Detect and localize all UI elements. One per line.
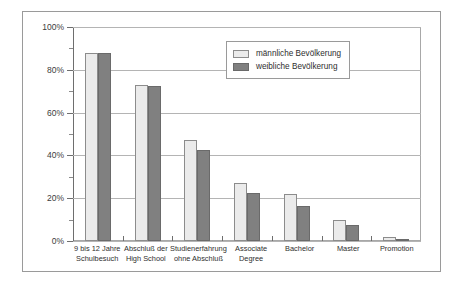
- y-axis-label: 80%: [47, 65, 64, 75]
- bar-female: [247, 193, 260, 241]
- x-axis-label: AssociateDegree: [227, 244, 276, 263]
- bar-group: [172, 27, 222, 241]
- bar-group: [371, 27, 421, 241]
- y-axis-label: 20%: [47, 193, 64, 203]
- y-axis-label: 100%: [42, 22, 64, 32]
- bar-female: [346, 225, 359, 241]
- bar-male: [135, 85, 148, 241]
- bar-group: [123, 27, 173, 241]
- x-tick: [123, 236, 124, 241]
- bar-female: [396, 239, 409, 241]
- y-tick-major: [67, 241, 73, 242]
- x-axis-label: Abschluß derHigh School: [122, 244, 171, 263]
- legend-label-male: männliche Bevölkerung: [256, 49, 341, 58]
- x-axis-labels: 9 bis 12 JahreSchulbesuchAbschluß derHig…: [73, 244, 421, 263]
- bar-male: [85, 53, 98, 241]
- bar-female: [98, 53, 111, 241]
- bar-female: [148, 86, 161, 241]
- x-axis-label: Studienerfahrungohne Abschluß: [170, 244, 227, 263]
- legend-swatch-female: [233, 63, 249, 71]
- legend-item-male: männliche Bevölkerung: [233, 47, 341, 60]
- chart-legend: männliche Bevölkerung weibliche Bevölker…: [226, 41, 350, 79]
- bar-female: [197, 150, 210, 241]
- y-axis-label: 0%: [52, 236, 64, 246]
- bar-group: [73, 27, 123, 241]
- bar-male: [284, 194, 297, 241]
- x-tick: [371, 236, 372, 241]
- x-axis-label: Bachelor: [275, 244, 324, 263]
- x-tick: [272, 236, 273, 241]
- bar-male: [234, 183, 247, 241]
- x-tick: [322, 236, 323, 241]
- bar-male: [383, 237, 396, 241]
- legend-label-female: weibliche Bevölkerung: [256, 62, 337, 71]
- x-axis-label: Master: [324, 244, 373, 263]
- y-axis-label: 60%: [47, 108, 64, 118]
- x-axis-label: Promotion: [372, 244, 421, 263]
- gridline: [73, 241, 421, 242]
- bar-female: [297, 206, 310, 241]
- y-axis-label: 40%: [47, 150, 64, 160]
- x-tick: [172, 236, 173, 241]
- legend-item-female: weibliche Bevölkerung: [233, 60, 341, 73]
- bar-male: [333, 220, 346, 241]
- x-axis-label: 9 bis 12 JahreSchulbesuch: [73, 244, 122, 263]
- bar-male: [184, 140, 197, 241]
- legend-swatch-male: [233, 50, 249, 58]
- chart-figure: 0%20%40%60%80%100% 9 bis 12 JahreSchulbe…: [22, 11, 441, 272]
- x-tick: [222, 236, 223, 241]
